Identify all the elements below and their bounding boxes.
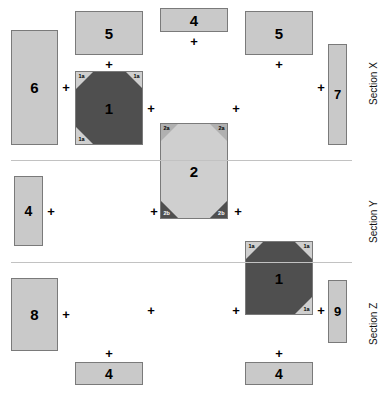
corner-tag-1a-tr: 1a — [303, 244, 309, 250]
plus-glyph: + — [317, 304, 325, 317]
plus-glyph: + — [232, 304, 240, 317]
plus-z-3: + — [145, 303, 157, 317]
plus-glyph: + — [47, 205, 55, 218]
plus-y-2: + — [148, 204, 160, 218]
piece-4-below-right-z-label: 4 — [275, 366, 283, 382]
piece-5-right-label: 5 — [275, 25, 283, 42]
plus-x-4: + — [188, 34, 200, 48]
plus-x-5: + — [230, 101, 242, 115]
piece-2-center-x: 2a 2a 2b 2b 2 — [160, 123, 228, 219]
piece-6-label: 6 — [30, 79, 38, 96]
section-z-label: Section Z — [368, 303, 378, 345]
piece-7: 7 — [328, 44, 347, 145]
plus-glyph: + — [105, 58, 113, 71]
plus-glyph: + — [234, 205, 242, 218]
corner-tag-1a-br: 1a — [303, 307, 309, 313]
piece-4-left-y: 4 — [14, 176, 43, 246]
section-x-label: Section X — [368, 62, 378, 105]
corner-tag-2a-tl: 2a — [164, 126, 170, 132]
plus-x-2: + — [103, 57, 115, 71]
plus-z-1: + — [60, 307, 72, 321]
plus-glyph: + — [190, 35, 198, 48]
piece-4-left-y-label: 4 — [25, 203, 33, 219]
plus-y-3: + — [232, 204, 244, 218]
section-y-label: Section Y — [368, 200, 378, 243]
piece-8-label: 8 — [30, 306, 38, 323]
plus-z-2: + — [103, 346, 115, 360]
piece-1-left-x: 1a 1a 1a 1 — [75, 71, 143, 145]
corner-tag-1a-bl: 1a — [79, 137, 85, 143]
diagram-canvas: 6 + 5 + 1a 1a 1a 1 + 4 + 2a 2a 2b — [0, 0, 378, 393]
piece-5-left-label: 5 — [105, 25, 113, 42]
plus-x-6: + — [273, 57, 285, 71]
piece-4-below-left-z-label: 4 — [105, 366, 113, 382]
piece-4-below-left-z: 4 — [75, 362, 143, 385]
piece-4-top-x: 4 — [160, 8, 228, 32]
plus-glyph: + — [275, 58, 283, 71]
plus-glyph: + — [62, 308, 70, 321]
plus-glyph: + — [232, 102, 240, 115]
plus-glyph: + — [150, 205, 158, 218]
piece-9: 9 — [328, 280, 347, 343]
plus-x-3: + — [145, 101, 157, 115]
piece-2-center-x-label: 2 — [161, 124, 227, 218]
piece-5-right: 5 — [245, 11, 313, 55]
corner-tag-2b-bl: 2b — [164, 211, 170, 217]
plus-z-6: + — [315, 303, 327, 317]
plus-glyph: + — [62, 81, 70, 94]
corner-tag-1a-tl: 1a — [249, 244, 255, 250]
plus-z-4: + — [230, 303, 242, 317]
corner-tag-1a-tl: 1a — [79, 74, 85, 80]
plus-y-1: + — [45, 204, 57, 218]
corner-tag-1a-tr: 1a — [133, 74, 139, 80]
plus-glyph: + — [275, 347, 283, 360]
plus-glyph: + — [147, 304, 155, 317]
plus-x-7: + — [315, 80, 327, 94]
piece-1-right-x-label: 1 — [246, 242, 312, 314]
piece-6: 6 — [11, 30, 58, 145]
piece-5-left: 5 — [75, 11, 143, 55]
plus-glyph: + — [147, 102, 155, 115]
piece-4-top-x-label: 4 — [190, 12, 198, 29]
plus-glyph: + — [105, 347, 113, 360]
piece-1-right-x: 1a 1a 1a 1 — [245, 241, 313, 315]
plus-x-1: + — [60, 80, 72, 94]
corner-tag-2a-tr: 2a — [218, 126, 224, 132]
piece-7-label: 7 — [334, 87, 341, 102]
piece-4-below-right-z: 4 — [245, 362, 313, 385]
plus-z-5: + — [273, 346, 285, 360]
piece-9-label: 9 — [334, 304, 341, 319]
corner-tag-2b-br: 2b — [218, 211, 224, 217]
plus-glyph: + — [317, 81, 325, 94]
piece-8: 8 — [11, 278, 58, 351]
piece-1-left-x-label: 1 — [76, 72, 142, 144]
